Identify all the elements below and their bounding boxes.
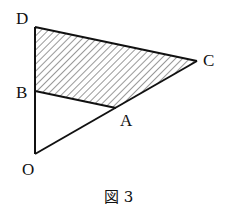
label-o: O [22,161,34,178]
label-b: B [16,84,27,101]
label-a: A [120,112,132,129]
label-d: D [16,10,28,27]
figure-caption: 図 3 [104,190,133,205]
label-c: C [203,52,214,69]
geometry-figure [0,0,229,220]
